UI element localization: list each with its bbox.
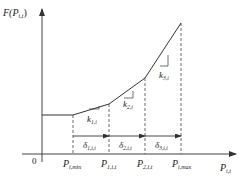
cost-curve — [42, 23, 181, 115]
slope-triangle-3 — [160, 55, 168, 66]
slope-label-1: k1,i — [87, 114, 97, 125]
tick-label-pmax: Pi,max — [171, 158, 192, 170]
tick-label-p2: P2,i,t — [136, 158, 153, 170]
delta-label-2: δ2,i,t — [119, 140, 132, 151]
slope-label-3: k3,i — [159, 70, 169, 81]
origin-label: 0 — [32, 156, 37, 166]
slope-label-2: k2,i — [123, 99, 133, 110]
piecewise-linear-cost-diagram: F(Pi,t) Pi,t 0 Pi,min P1,i,t P2,i,t Pi,m… — [0, 0, 251, 182]
x-axis-label: Pi,t — [219, 162, 231, 174]
delta-label-3: δ3,i,t — [155, 140, 168, 151]
y-axis-label: F(Pi,t) — [2, 7, 27, 19]
tick-label-p1: P1,i,t — [100, 158, 117, 170]
tick-label-pmin: Pi,min — [62, 158, 81, 170]
delta-label-1: δ1,i,t — [83, 140, 96, 151]
